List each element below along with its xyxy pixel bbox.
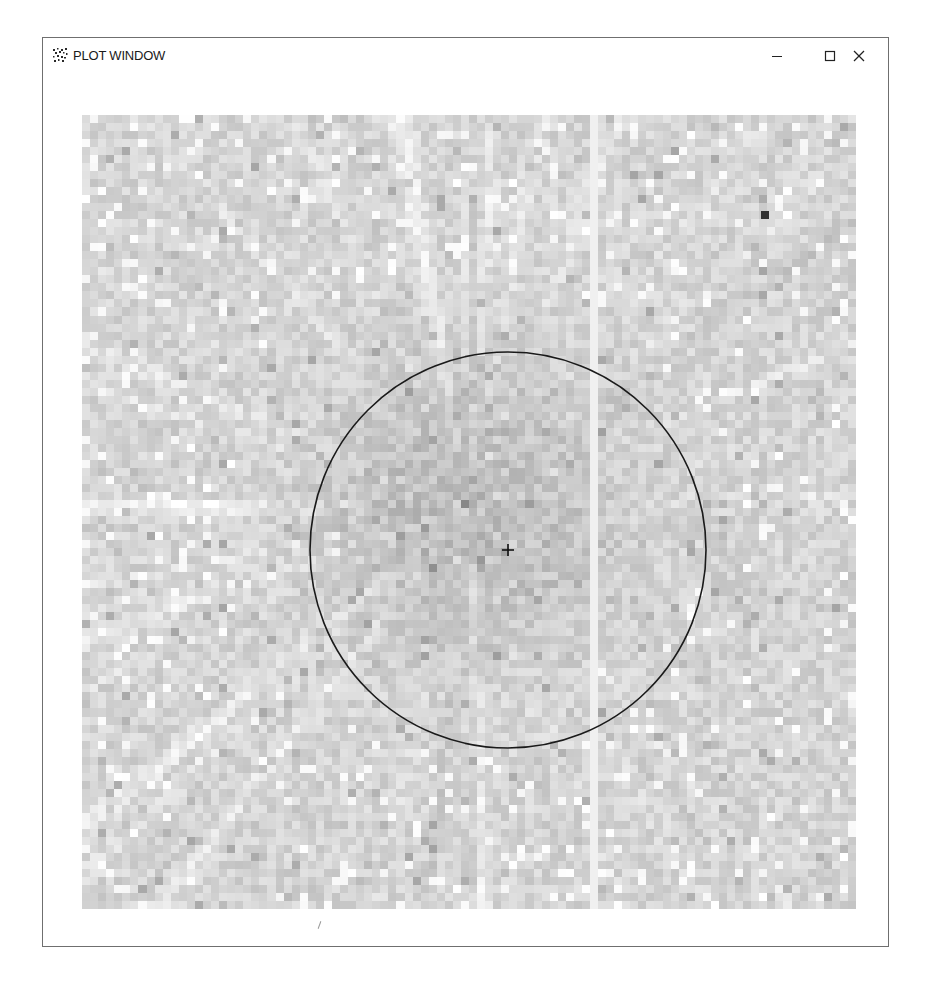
plot-image-area[interactable] — [82, 115, 856, 909]
plot-window: PLOT WINDOW — [42, 37, 889, 947]
highlighted-pixel — [761, 211, 769, 219]
window-title: PLOT WINDOW — [73, 48, 165, 63]
center-marker-icon[interactable] — [502, 544, 514, 556]
scatter-dots-icon — [52, 48, 68, 63]
title-bar[interactable]: PLOT WINDOW — [43, 38, 888, 74]
stray-mark — [318, 921, 322, 929]
close-button[interactable] — [836, 42, 882, 70]
minimize-button[interactable] — [754, 42, 800, 70]
minimize-icon — [771, 50, 783, 62]
plot-overlay — [82, 115, 856, 909]
maximize-icon — [824, 50, 836, 62]
close-icon — [853, 50, 865, 62]
